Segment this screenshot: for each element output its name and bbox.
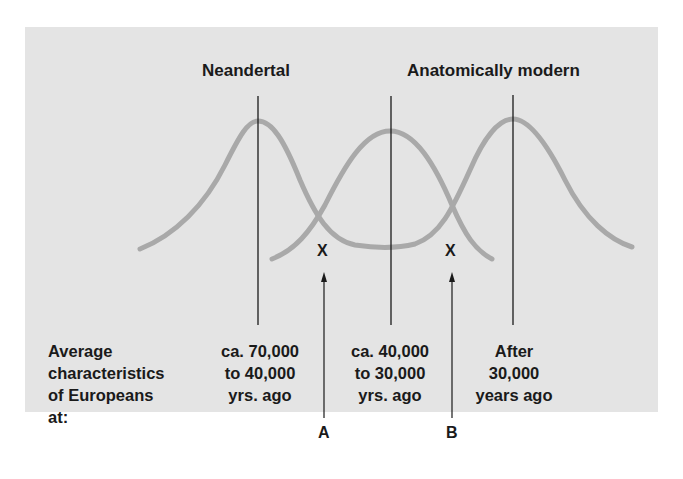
period-line-text: 30,000 xyxy=(462,362,566,384)
period-label-1: ca. 70,000 to 40,000 yrs. ago xyxy=(208,340,312,406)
period-label-2: ca. 40,000 to 30,000 yrs. ago xyxy=(337,340,443,406)
row-label-line: at: xyxy=(48,406,165,428)
period-line-text: After xyxy=(462,340,566,362)
row-label: Average characteristics of Europeans at: xyxy=(48,340,165,428)
arrow-label-a: A xyxy=(318,424,330,442)
row-label-line: of Europeans xyxy=(48,384,165,406)
period-label-3: After 30,000 years ago xyxy=(462,340,566,406)
period-line-text: years ago xyxy=(462,384,566,406)
row-label-line: characteristics xyxy=(48,362,165,384)
crossing-mark-a: X xyxy=(317,242,328,260)
row-label-line: Average xyxy=(48,340,165,362)
arrow-label-b: B xyxy=(446,424,458,442)
neandertal-to-modern-curve xyxy=(140,119,632,249)
period-line-text: yrs. ago xyxy=(337,384,443,406)
period-line-text: ca. 40,000 xyxy=(337,340,443,362)
arrow-b-head-icon xyxy=(449,272,455,282)
period-line-text: to 40,000 xyxy=(208,362,312,384)
title-neandertal: Neandertal xyxy=(202,61,290,81)
arrow-a-head-icon xyxy=(321,272,327,282)
period-line-text: to 30,000 xyxy=(337,362,443,384)
title-anatomically-modern: Anatomically modern xyxy=(407,61,580,81)
crossing-mark-b: X xyxy=(445,242,456,260)
period-line-text: ca. 70,000 xyxy=(208,340,312,362)
period-line-text: yrs. ago xyxy=(208,384,312,406)
